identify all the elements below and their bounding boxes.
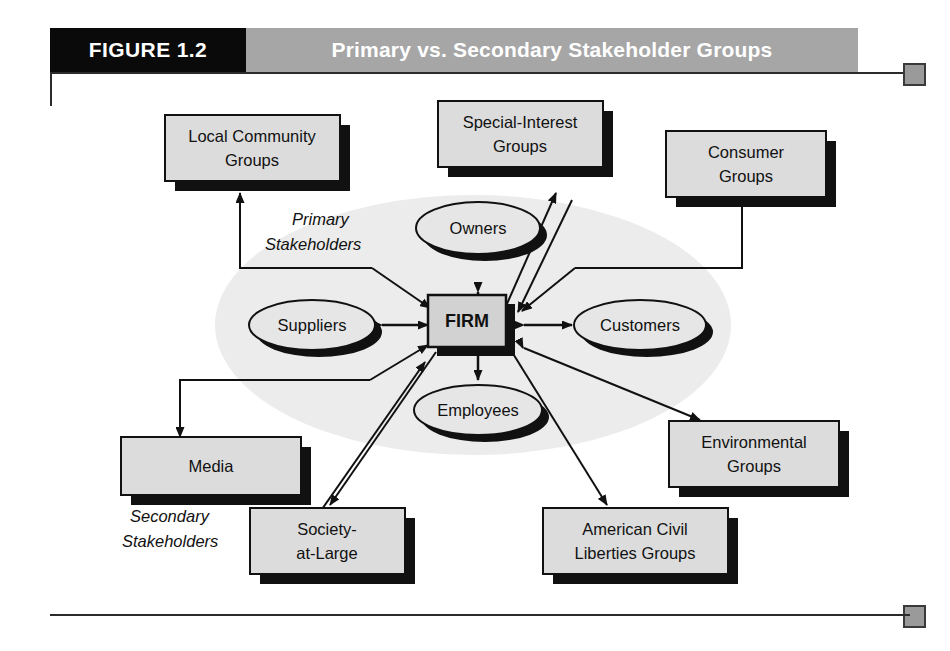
box-label-line2: Groups [719,167,773,185]
primary-caption-line1: Primary [292,210,351,228]
stakeholder-diagram: Local Community Groups Special-Interest … [0,80,950,600]
box-body [438,101,603,167]
firm-node[interactable]: FIRM [428,295,515,356]
box-label-line1: Special-Interest [463,113,578,131]
header-rule [50,72,910,74]
figure-header-bar: FIGURE 1.2 Primary vs. Secondary Stakeho… [50,28,858,72]
corner-marker-bottom-right [903,605,926,628]
footer-rule [50,614,910,616]
box-special-interest-groups[interactable]: Special-Interest Groups [438,101,613,177]
box-label-line2: Groups [225,151,279,169]
primary-caption-line2: Stakeholders [265,235,361,253]
box-american-civil-liberties-groups[interactable]: American Civil Liberties Groups [543,508,738,584]
oval-label: Suppliers [278,316,347,334]
box-label-line1: American Civil [582,520,687,538]
oval-label: Owners [450,219,507,237]
box-label-line1: Society- [297,520,357,538]
box-body [669,421,839,487]
box-label-line1: Consumer [708,143,785,161]
oval-label: Customers [600,316,680,334]
box-label-line2: Liberties Groups [574,544,695,562]
secondary-caption-line1: Secondary [130,507,211,525]
box-label-line1: Media [189,457,235,475]
figure-page: FIGURE 1.2 Primary vs. Secondary Stakeho… [0,0,950,651]
box-label-line2: at-Large [296,544,357,562]
box-label-line2: Groups [493,137,547,155]
box-environmental-groups[interactable]: Environmental Groups [669,421,849,497]
figure-number-label: FIGURE 1.2 [50,28,246,72]
box-local-community-groups[interactable]: Local Community Groups [165,115,350,191]
box-label-line1: Local Community [188,127,316,145]
secondary-stakeholders-caption: Secondary Stakeholders [122,507,218,550]
box-body [666,131,826,197]
box-media[interactable]: Media [121,437,311,505]
box-body [543,508,728,574]
box-body [165,115,340,181]
box-body [250,508,405,574]
box-label-line1: Environmental [701,433,806,451]
box-society-at-large[interactable]: Society- at-Large [250,508,415,584]
diagram-svg: Local Community Groups Special-Interest … [0,80,950,600]
box-consumer-groups[interactable]: Consumer Groups [666,131,836,207]
firm-label: FIRM [445,311,489,331]
figure-title: Primary vs. Secondary Stakeholder Groups [246,28,858,72]
oval-label: Employees [437,401,519,419]
secondary-caption-line2: Stakeholders [122,532,218,550]
box-label-line2: Groups [727,457,781,475]
